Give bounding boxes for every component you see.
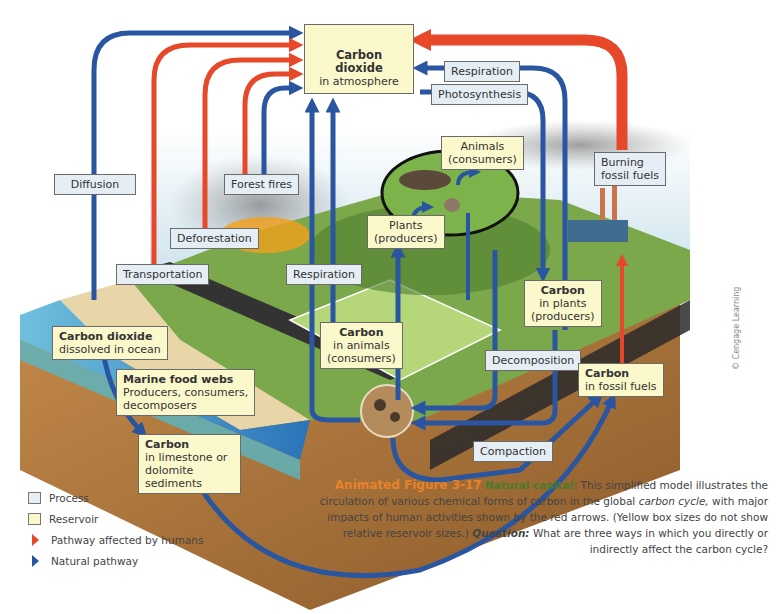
process-forest-fires: Forest fires (224, 174, 299, 195)
carbon-animals-line-2: (consumers) (327, 352, 396, 365)
reservoir-co2-ocean: Carbon dioxide dissolved in ocean (52, 326, 168, 360)
plants-line-1: Plants (374, 219, 438, 232)
burning-line-2: fossil fuels (601, 169, 659, 182)
carbon-plants-title: Carbon (531, 284, 595, 297)
atmosphere-title: Carbon dioxide (311, 49, 407, 75)
reservoir-carbon-animals: Carbon in animals (consumers) (320, 322, 403, 369)
predator-animal (399, 170, 451, 190)
legend-human-label: Pathway affected by humans (51, 534, 203, 546)
rabbit (444, 198, 460, 212)
caption-italic: carbon cycle, (639, 495, 709, 507)
co2-ocean-line-1: dissolved in ocean (59, 343, 161, 356)
figure-caption: Animated Figure 3-17 Natural capital: Th… (300, 477, 768, 557)
animals-line-1: Animals (448, 140, 517, 153)
power-plant (568, 220, 628, 242)
carbon-plants-line-1: in plants (531, 297, 595, 310)
copyright-credit: © Cengage Learning (732, 287, 741, 370)
question-label: Question: (472, 527, 529, 539)
reservoir-plants: Plants (producers) (367, 215, 445, 249)
legend-process-label: Process (49, 492, 89, 504)
reservoir-carbon-fossil-fuels: Carbon in fossil fuels (578, 363, 664, 397)
smokestack (612, 184, 617, 220)
carbon-fossil-title: Carbon (585, 367, 657, 380)
decomposer (390, 412, 400, 422)
decomposers-inset (361, 385, 413, 437)
process-burning-fossil-fuels: Burning fossil fuels (594, 152, 666, 186)
burning-line-1: Burning (601, 156, 659, 169)
process-respiration-top: Respiration (444, 61, 520, 82)
reservoir-limestone: Carbon in limestone or dolomite sediment… (138, 434, 241, 494)
question-text: What are three ways in which you directl… (530, 527, 768, 555)
process-deforestation: Deforestation (170, 228, 259, 249)
reservoir-carbon-plants: Carbon in plants (producers) (524, 280, 602, 327)
legend-reservoir-label: Reservoir (49, 513, 98, 525)
legend-human: Pathway affected by humans (28, 529, 203, 550)
atmosphere-subtitle: in atmosphere (311, 75, 407, 88)
smokestack (600, 188, 605, 220)
red-arrow-icon (32, 534, 39, 546)
plants-line-2: (producers) (374, 232, 438, 245)
process-decomposition: Decomposition (485, 350, 581, 371)
process-photosynthesis: Photosynthesis (431, 84, 528, 105)
blue-arrow-icon (32, 555, 39, 567)
carbon-fossil-line-1: in fossil fuels (585, 380, 657, 393)
limestone-line-1: in limestone or (145, 451, 234, 464)
reservoir-swatch-icon (28, 513, 41, 525)
carbon-animals-line-1: in animals (327, 339, 396, 352)
legend: Process Reservoir Pathway affected by hu… (28, 487, 203, 571)
reservoir-atmosphere: Carbon dioxide in atmosphere (304, 24, 414, 94)
marine-line-2: decomposers (123, 399, 248, 412)
carbon-animals-title: Carbon (327, 326, 396, 339)
natural-capital-label: Natural capital: (485, 479, 577, 491)
process-diffusion: Diffusion (54, 174, 136, 195)
process-compaction: Compaction (473, 441, 553, 462)
process-transportation: Transportation (116, 264, 209, 285)
animals-line-2: (consumers) (448, 153, 517, 166)
co2-ocean-title: Carbon dioxide (59, 330, 161, 343)
marine-title: Marine food webs (123, 373, 248, 386)
reservoir-marine-food-webs: Marine food webs Producers, consumers, d… (116, 369, 255, 416)
legend-process: Process (28, 487, 203, 508)
legend-reservoir: Reservoir (28, 508, 203, 529)
process-swatch-icon (28, 492, 41, 504)
process-respiration-animals: Respiration (286, 264, 362, 285)
limestone-title: Carbon (145, 438, 234, 451)
marine-line-1: Producers, consumers, (123, 386, 248, 399)
carbon-plants-line-2: (producers) (531, 310, 595, 323)
reservoir-animals: Animals (consumers) (441, 136, 524, 170)
figure-number: Animated Figure 3-17 (335, 478, 482, 492)
decomposer (374, 399, 386, 411)
legend-natural: Natural pathway (28, 550, 203, 571)
legend-natural-label: Natural pathway (51, 555, 138, 567)
